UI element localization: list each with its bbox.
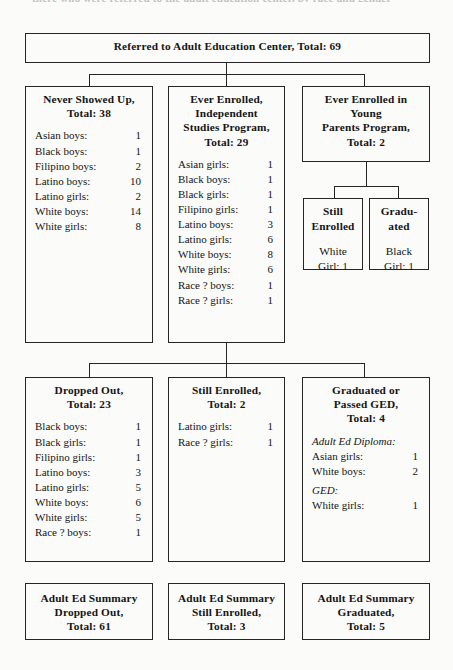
connector-row2-left-drop [89, 363, 90, 377]
connector-young-parents-down [366, 162, 367, 186]
table-row: White boys:6 [33, 495, 145, 510]
table-row: Black boys:1 [176, 172, 277, 187]
connector-row2-bus [89, 363, 365, 364]
cut-off-caption-text: there who were referred to the adult edu… [32, 0, 422, 2]
node-graduated-or-passed-ged: Graduated or Passed GED, Total: 4 Adult … [302, 377, 430, 562]
node-ever-enrolled-independent-studies: Ever Enrolled, Independent Studies Progr… [168, 86, 285, 343]
node-young-parents-still-enrolled: Still Enrolled White Girl: 1 [303, 198, 363, 270]
table-row: Latino girls:5 [33, 480, 145, 495]
node-still-enrolled: Still Enrolled, Total: 2 Latino girls:1 … [168, 377, 285, 562]
node-detail: White Girl: 1 [311, 244, 355, 274]
table-row: Race ? boys:1 [33, 525, 145, 540]
table-row: White girls:5 [33, 510, 145, 525]
node-summary-graduated: Adult Ed Summary Graduated, Total: 5 [302, 583, 430, 640]
stat-table: Adult Ed Diploma: Asian girls:1 White bo… [310, 434, 422, 513]
table-row: Latino girls:1 [176, 419, 277, 434]
table-row: White boys:2 [310, 464, 422, 479]
node-ever-enrolled-young-parents: Ever Enrolled in Young Parents Program, … [302, 86, 430, 162]
node-title: Adult Ed Summary Dropped Out, Total: 61 [33, 589, 145, 634]
table-row: White girls:1 [310, 498, 422, 513]
connector-row1-mid-drop [226, 74, 227, 86]
table-subheading-row: Adult Ed Diploma: [310, 434, 422, 449]
node-title: Gradu- ated [377, 204, 421, 234]
table-row: Black girls:1 [176, 187, 277, 202]
table-row: Asian girls:1 [176, 157, 277, 172]
node-young-parents-graduated: Gradu- ated Black Girl: 1 [369, 198, 429, 270]
node-never-showed-up: Never Showed Up, Total: 38 Asian boys:1 … [25, 86, 153, 343]
node-title: Never Showed Up, Total: 38 [33, 92, 145, 120]
table-row: Latino boys:10 [33, 174, 145, 189]
table-row: Race ? girls:1 [176, 293, 277, 308]
node-detail: Black Girl: 1 [377, 244, 421, 274]
connector-young-parents-left-drop [334, 186, 335, 198]
node-dropped-out: Dropped Out, Total: 23 Black boys:1 Blac… [25, 377, 153, 562]
table-row: Latino boys:3 [176, 217, 277, 232]
node-title: Referred to Adult Education Center, Tota… [33, 39, 422, 53]
stat-table: Asian boys:1 Black boys:1 Filipino boys:… [33, 128, 145, 234]
table-row: Filipino girls:1 [176, 202, 277, 217]
node-title: Adult Ed Summary Still Enrolled, Total: … [176, 589, 277, 634]
node-summary-dropped-out: Adult Ed Summary Dropped Out, Total: 61 [25, 583, 153, 640]
stat-table: Black boys:1 Black girls:1 Filipino girl… [33, 419, 145, 540]
node-title: Ever Enrolled, Independent Studies Progr… [176, 92, 277, 149]
table-row: Asian boys:1 [33, 128, 145, 143]
table-row: Latino girls:2 [33, 189, 145, 204]
node-title: Still Enrolled, Total: 2 [176, 383, 277, 411]
table-row: Asian girls:1 [310, 449, 422, 464]
table-row: White boys:14 [33, 204, 145, 219]
table-row: White boys:8 [176, 247, 277, 262]
connector-young-parents-right-drop [398, 186, 399, 198]
table-row: Latino girls:6 [176, 232, 277, 247]
flowchart-page: there who were referred to the adult edu… [0, 0, 453, 670]
table-row: White girls:6 [176, 262, 277, 277]
table-subheading-row: GED: [310, 479, 422, 498]
node-title: Ever Enrolled in Young Parents Program, … [310, 92, 422, 149]
table-row: Black boys:1 [33, 144, 145, 159]
table-row: Black girls:1 [33, 435, 145, 450]
table-row: White girls:8 [33, 219, 145, 234]
table-row: Race ? girls:1 [176, 435, 277, 450]
table-row: Race ? boys:1 [176, 278, 277, 293]
node-referred-to-adult-education-center: Referred to Adult Education Center, Tota… [25, 33, 430, 63]
node-title: Dropped Out, Total: 23 [33, 383, 145, 411]
table-row: Filipino girls:1 [33, 450, 145, 465]
node-title: Graduated or Passed GED, Total: 4 [310, 383, 422, 426]
node-title: Still Enrolled [311, 204, 355, 234]
connector-row1-right-drop [364, 74, 365, 86]
node-title: Adult Ed Summary Graduated, Total: 5 [310, 589, 422, 634]
node-summary-still-enrolled: Adult Ed Summary Still Enrolled, Total: … [168, 583, 285, 640]
table-row: Latino boys:3 [33, 465, 145, 480]
stat-table: Latino girls:1 Race ? girls:1 [176, 419, 277, 449]
connector-young-parents-bus [334, 186, 399, 187]
table-row: Black boys:1 [33, 419, 145, 434]
connector-row1-left-drop [89, 74, 90, 86]
table-row: Filipino boys:2 [33, 159, 145, 174]
connector-row2-right-drop [364, 363, 365, 377]
connector-independent-studies-down [226, 343, 227, 377]
stat-table: Asian girls:1 Black boys:1 Black girls:1… [176, 157, 277, 308]
